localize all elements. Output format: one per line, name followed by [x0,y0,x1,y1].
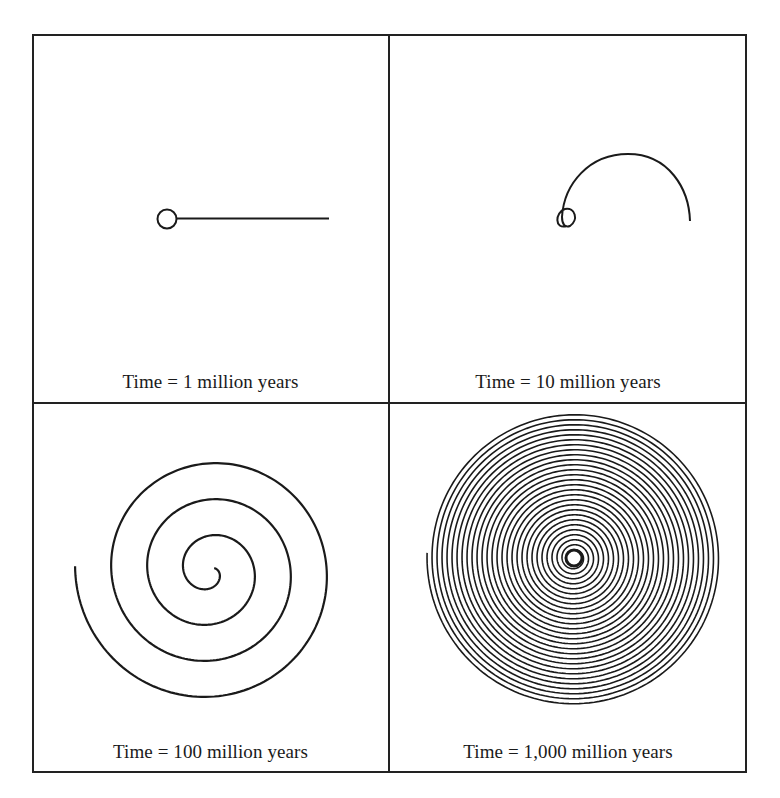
dense-spiral-diagram [389,403,747,773]
panel-1000-million-years: Time = 1,000 million years [389,403,747,773]
caption-panel-1: Time = 1 million years [32,371,389,393]
caption-panel-2: Time = 10 million years [389,371,747,393]
caption-panel-3: Time = 100 million years [32,741,389,763]
arc-with-loop-diagram [389,34,747,403]
panel-1-million-years: Time = 1 million years [32,34,389,403]
panel-10-million-years: Time = 10 million years [389,34,747,403]
spiral-time-figure: Time = 1 million years Time = 10 million… [32,34,747,773]
caption-panel-4: Time = 1,000 million years [389,741,747,763]
line-with-circle-diagram [32,34,389,403]
panel-100-million-years: Time = 100 million years [32,403,389,773]
three-turn-spiral-diagram [32,403,389,773]
